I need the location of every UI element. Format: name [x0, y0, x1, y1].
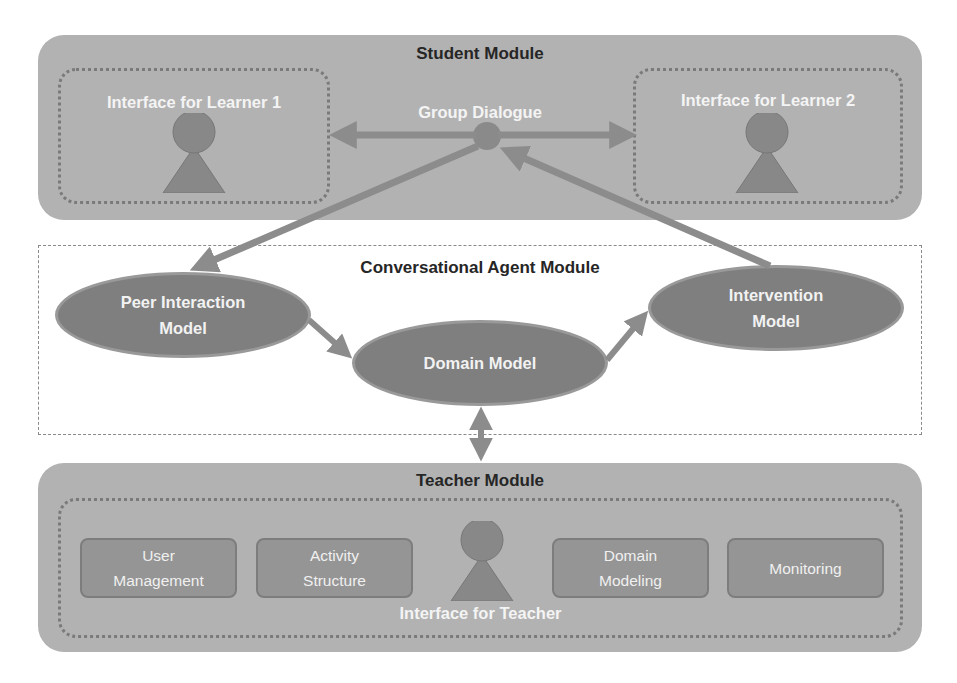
tool-activity-structure-line2: Structure: [303, 568, 366, 593]
tool-user-management-line2: Management: [113, 568, 203, 593]
tool-user-management: User Management: [80, 538, 237, 598]
tool-domain-modeling-line2: Modeling: [599, 568, 662, 593]
tool-monitoring: Monitoring: [727, 538, 884, 598]
intervention-model-line1: Intervention: [729, 282, 823, 308]
peer-model-line2: Model: [159, 315, 207, 341]
learner1-person-icon: [161, 113, 227, 193]
intervention-model-line2: Model: [752, 308, 800, 334]
domain-model: Domain Model: [352, 320, 608, 406]
student-module: Student Module Interface for Learner 1 G…: [38, 35, 922, 220]
domain-model-label: Domain Model: [424, 350, 537, 376]
tool-monitoring-line1: Monitoring: [769, 556, 841, 581]
group-dialogue-label: Group Dialogue: [398, 103, 562, 122]
tool-domain-modeling-line1: Domain: [604, 543, 657, 568]
teacher-interface-label: Interface for Teacher: [61, 604, 900, 623]
peer-interaction-model: Peer Interaction Model: [55, 272, 311, 358]
teacher-person-icon: [449, 521, 515, 601]
teacher-module: Teacher Module User Management Activity …: [38, 463, 922, 652]
tool-activity-structure-line1: Activity: [310, 543, 359, 568]
teacher-module-title: Teacher Module: [38, 471, 922, 491]
teacher-interface: User Management Activity Structure Domai…: [58, 498, 903, 638]
learner1-label: Interface for Learner 1: [61, 93, 327, 112]
tool-user-management-line1: User: [142, 543, 175, 568]
learner2-person-icon: [734, 113, 800, 193]
student-module-title: Student Module: [38, 44, 922, 64]
tool-activity-structure: Activity Structure: [256, 538, 413, 598]
learner2-interface: Interface for Learner 2: [633, 68, 903, 204]
learner1-interface: Interface for Learner 1: [58, 68, 330, 204]
learner2-label: Interface for Learner 2: [636, 91, 900, 110]
tool-domain-modeling: Domain Modeling: [552, 538, 709, 598]
peer-model-line1: Peer Interaction: [121, 289, 246, 315]
intervention-model: Intervention Model: [648, 265, 904, 351]
